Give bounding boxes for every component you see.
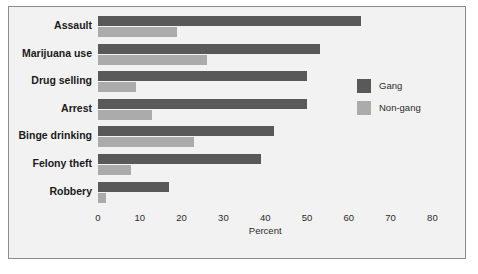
legend-item: Gang — [357, 77, 453, 99]
bar-nongang — [98, 55, 207, 65]
bar-nongang — [98, 82, 136, 92]
legend-swatch-nongang — [357, 101, 371, 115]
x-axis-tick: 80 — [417, 212, 447, 223]
plot-area: AssaultMarijuana useDrug sellingArrestBi… — [9, 7, 465, 258]
category-label: Robbery — [9, 185, 92, 197]
category-label: Felony theft — [9, 157, 92, 169]
x-axis: 01020304050607080Percent — [9, 212, 465, 242]
category-label: Binge drinking — [9, 129, 92, 141]
category-label: Assault — [9, 19, 92, 31]
x-axis-tick: 10 — [125, 212, 155, 223]
bar-gang — [98, 182, 169, 192]
x-axis-tick: 50 — [292, 212, 322, 223]
bar-nongang — [98, 110, 152, 120]
x-axis-tick: 0 — [83, 212, 113, 223]
bar-gang — [98, 16, 361, 26]
x-axis-tick: 60 — [334, 212, 364, 223]
category-label: Marijuana use — [9, 47, 92, 59]
category-label: Drug selling — [9, 74, 92, 86]
bar-nongang — [98, 137, 194, 147]
legend-label: Gang — [379, 80, 402, 91]
x-axis-tick: 40 — [250, 212, 280, 223]
legend-swatch-gang — [357, 79, 371, 93]
x-axis-tick: 30 — [208, 212, 238, 223]
chart-row: Felony theft — [9, 153, 465, 180]
chart-panel: AssaultMarijuana useDrug sellingArrestBi… — [8, 6, 466, 259]
bar-nongang — [98, 193, 106, 203]
x-axis-tick: 70 — [376, 212, 406, 223]
category-label: Arrest — [9, 102, 92, 114]
chart-row: Binge drinking — [9, 125, 465, 152]
chart-row: Marijuana use — [9, 43, 465, 70]
bar-gang — [98, 44, 320, 54]
legend-label: Non-gang — [379, 102, 421, 113]
x-axis-tick: 20 — [167, 212, 197, 223]
bar-gang — [98, 154, 261, 164]
bar-gang — [98, 71, 307, 81]
chart-row: Assault — [9, 15, 465, 42]
bar-nongang — [98, 165, 131, 175]
bar-nongang — [98, 27, 177, 37]
chart-legend: GangNon-gang — [357, 77, 453, 121]
legend-item: Non-gang — [357, 99, 453, 121]
chart-row: Robbery — [9, 181, 465, 208]
bar-gang — [98, 126, 274, 136]
x-axis-label: Percent — [235, 225, 295, 236]
bar-gang — [98, 99, 307, 109]
